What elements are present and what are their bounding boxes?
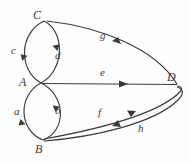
edge-label-g: g	[100, 30, 106, 41]
edge-label-c: c	[11, 45, 16, 56]
arrowhead-g	[112, 37, 121, 44]
edge-label-h: h	[138, 123, 144, 134]
arrowhead-a	[18, 118, 26, 125]
graph-figure: C A B D c d a b g e f h	[0, 0, 190, 163]
vertex-label-C: C	[33, 9, 41, 21]
edge-label-f: f	[98, 107, 101, 118]
vertex-label-D: D	[167, 71, 176, 83]
vertex-label-A: A	[19, 76, 26, 88]
vertex-label-B: B	[35, 143, 42, 155]
arrowhead-e	[119, 81, 128, 88]
edge-label-a: a	[14, 106, 20, 117]
edge-path-h	[44, 87, 182, 141]
graph-canvas	[0, 0, 190, 163]
arrowhead-c	[19, 54, 27, 61]
edge-path-e	[42, 84, 177, 85]
arrowhead-f	[127, 111, 136, 118]
edge-path-c	[24, 21, 44, 83]
edge-label-e: e	[100, 67, 105, 78]
edge-path-g	[47, 21, 177, 84]
edge-label-d: d	[55, 50, 61, 61]
edge-label-b: b	[55, 105, 61, 116]
edge-path-a	[24, 83, 43, 140]
